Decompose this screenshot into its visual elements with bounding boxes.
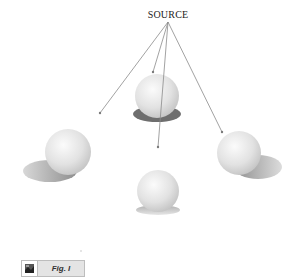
bottom-sphere xyxy=(137,170,179,212)
light-source-diagram xyxy=(0,0,299,277)
right-sphere xyxy=(217,131,261,175)
figure-caption: Fig. I xyxy=(21,260,85,277)
diagram-canvas: SOURCE Fig. I xyxy=(0,0,299,277)
top-sphere xyxy=(135,74,179,118)
left-sphere xyxy=(45,129,91,175)
figure-icon xyxy=(22,261,38,276)
stray-dot xyxy=(80,250,82,252)
source-label: SOURCE xyxy=(138,9,198,20)
figure-label: Fig. I xyxy=(38,261,84,276)
